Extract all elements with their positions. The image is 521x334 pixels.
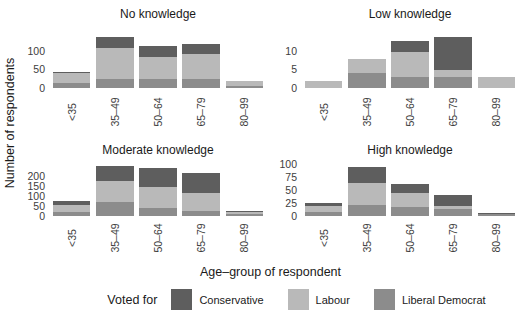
- x-tick-label: 50–64: [404, 97, 416, 126]
- facet-title: High knowledge: [302, 142, 518, 158]
- x-tick-slot: 35–49: [96, 216, 134, 260]
- stacked-bar-50-64: [391, 26, 429, 88]
- stacked-bar-80-99: [478, 162, 516, 216]
- x-tick-slot: 50–64: [391, 88, 429, 136]
- x-tick-slot: 50–64: [139, 88, 177, 136]
- stacked-bar--35: [53, 162, 91, 216]
- segment-labour: [53, 73, 91, 82]
- legend: Voted for ConservativeLabourLiberal Demo…: [0, 289, 521, 310]
- segment-conservative: [96, 37, 134, 48]
- segment-labour: [96, 48, 134, 79]
- segment-conservative: [139, 168, 177, 187]
- y-tick-label: 0: [291, 83, 297, 94]
- bars: [302, 162, 518, 216]
- segment-conservative: [139, 46, 177, 57]
- x-tick-label: 65–79: [195, 97, 207, 126]
- segment-liberal-democrat: [434, 209, 472, 216]
- x-tick-slot: 80–99: [478, 88, 516, 136]
- legend-entry-liberal-democrat: Liberal Democrat: [374, 289, 486, 310]
- plot-region: Number of respondents No knowledge050100…: [0, 6, 521, 260]
- legend-swatch-labour: [288, 289, 309, 310]
- segment-conservative: [96, 166, 134, 181]
- stacked-bar-50-64: [391, 162, 429, 216]
- x-tick-label: 35–49: [361, 97, 373, 126]
- segment-liberal-democrat: [391, 207, 429, 216]
- x-tick-slot: <35: [53, 216, 91, 260]
- y-tick-label: 50: [285, 185, 297, 196]
- x-tick-label: 50–64: [152, 97, 164, 126]
- x-tick-label: <35: [66, 229, 78, 247]
- segment-labour: [391, 193, 429, 207]
- segment-labour: [53, 205, 91, 212]
- segment-liberal-democrat: [434, 77, 472, 88]
- segment-liberal-democrat: [182, 79, 220, 88]
- facet-no-knowledge: No knowledge050100<3535–4950–6465–7980–9…: [20, 6, 266, 136]
- segment-conservative: [391, 41, 429, 52]
- facet-moderate-knowledge: Moderate knowledge050100150200<3535–4950…: [20, 142, 266, 260]
- stacked-bar--35: [305, 162, 343, 216]
- segment-liberal-democrat: [96, 202, 134, 216]
- x-tick-slot: 80–99: [226, 88, 264, 136]
- x-tick-slot: 80–99: [478, 216, 516, 260]
- y-tick-label: 0: [39, 83, 45, 94]
- stacked-bar-35-49: [96, 162, 134, 216]
- bars: [302, 26, 518, 88]
- x-tick-slot: 35–49: [348, 88, 386, 136]
- x-axis-tick-labels: <3535–4950–6465–7980–99: [50, 88, 266, 136]
- y-tick-label: 100: [27, 46, 45, 57]
- x-tick-slot: 50–64: [391, 216, 429, 260]
- x-tick-label: 65–79: [447, 223, 459, 252]
- segment-conservative: [434, 195, 472, 206]
- stacked-bar-65-79: [434, 26, 472, 88]
- stacked-bar-35-49: [96, 26, 134, 88]
- y-tick-label: 100: [279, 159, 297, 170]
- segment-labour: [182, 54, 220, 78]
- stacked-bar-50-64: [139, 162, 177, 216]
- facet-grid: No knowledge050100<3535–4950–6465–7980–9…: [20, 6, 521, 260]
- plot-area: [50, 162, 266, 216]
- stacked-bar-80-99: [226, 162, 264, 216]
- x-tick-label: 80–99: [490, 223, 502, 252]
- segment-liberal-democrat: [348, 205, 386, 216]
- stacked-bar-65-79: [182, 162, 220, 216]
- x-tick-label: 35–49: [361, 223, 373, 252]
- segment-labour: [391, 52, 429, 78]
- x-tick-slot: 65–79: [182, 88, 220, 136]
- plot-area: [302, 162, 518, 216]
- segment-conservative: [434, 37, 472, 70]
- x-tick-slot: 80–99: [226, 216, 264, 260]
- y-axis-title: Number of respondents: [3, 58, 17, 189]
- segment-conservative: [391, 184, 429, 192]
- plot-area: [50, 26, 266, 88]
- y-axis-tick-labels: 050100150200: [20, 162, 50, 216]
- segment-labour: [348, 59, 386, 74]
- segment-conservative: [348, 167, 386, 184]
- facet-title: Low knowledge: [302, 6, 518, 22]
- y-tick-label: 5: [291, 65, 297, 76]
- segment-liberal-democrat: [139, 79, 177, 88]
- plot-row: 0255075100: [272, 162, 518, 216]
- y-tick-label: 50: [33, 65, 45, 76]
- x-tick-slot: 65–79: [182, 216, 220, 260]
- stacked-bar-35-49: [348, 26, 386, 88]
- y-tick-label: 75: [285, 172, 297, 183]
- segment-labour: [305, 81, 343, 88]
- x-tick-label: <35: [318, 229, 330, 247]
- y-tick-label: 150: [27, 181, 45, 192]
- legend-entry-labour: Labour: [288, 289, 350, 310]
- x-tick-slot: <35: [305, 216, 343, 260]
- bars: [50, 26, 266, 88]
- stacked-bar-50-64: [139, 26, 177, 88]
- x-tick-slot: 65–79: [434, 216, 472, 260]
- x-tick-slot: 65–79: [434, 88, 472, 136]
- segment-liberal-democrat: [96, 79, 134, 88]
- legend-label: Liberal Democrat: [402, 294, 486, 306]
- legend-entry-conservative: Conservative: [171, 289, 263, 310]
- x-tick-label: 50–64: [404, 223, 416, 252]
- segment-labour: [139, 187, 177, 208]
- y-axis-tick-labels: 0510: [272, 26, 302, 88]
- x-tick-slot: 35–49: [96, 88, 134, 136]
- x-tick-label: 80–99: [238, 97, 250, 126]
- legend-label: Conservative: [199, 294, 263, 306]
- segment-conservative: [182, 173, 220, 193]
